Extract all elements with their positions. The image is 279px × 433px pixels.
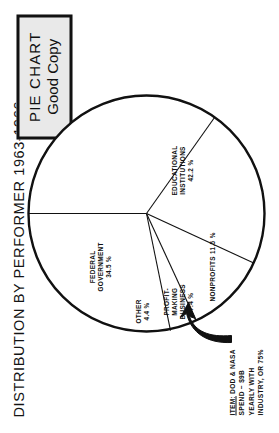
curved-arrow-path — [180, 302, 231, 342]
slice-label-line: MAKING — [170, 284, 178, 319]
item-note-label: ITEM: — [228, 396, 235, 415]
slice-label-other: OTHER 4.4 % — [134, 299, 150, 323]
slice-label-line: GOVERNMENT — [96, 242, 104, 291]
slice-label-line: EDUCATIONAL — [170, 145, 178, 195]
slice-label-line: PROFIT- — [162, 284, 170, 319]
slice-label-line: OTHER — [134, 299, 142, 323]
slice-label-line: INSTITUTIONS — [178, 145, 186, 195]
slice-label-nonprofits: NONPROFITS 11.5 % — [208, 232, 216, 301]
item-note-line-3: YEARLY WITH — [247, 367, 254, 415]
slice-label-line: NONPROFITS 11.5 % — [208, 232, 216, 301]
item-note-line-4: INDUSTRY, OR 75% — [256, 349, 263, 415]
slice-label-line: FEDERAL — [88, 242, 96, 291]
item-note-line-1: DOD & NASA — [228, 349, 235, 394]
curved-arrow-icon — [179, 301, 235, 347]
slide-canvas: DISTRIBUTION BY PERFORMER 1963-1966 PIE … — [0, 0, 279, 433]
slice-label-line: 4.4 % — [142, 299, 150, 323]
pie-chart: FEDERAL GOVERNMENT 34.5 % EDUCATIONAL IN… — [22, 89, 270, 337]
item-note-line-2: SPEND ~ $9B — [237, 369, 244, 415]
slice-label-line: 34.5 % — [104, 242, 112, 291]
item-note: ITEM: DOD & NASA SPEND ~ $9B YEARLY WITH… — [227, 349, 265, 415]
slice-label-line: 42.2 % — [186, 145, 194, 195]
slice-label-federal-government: FEDERAL GOVERNMENT 34.5 % — [88, 242, 113, 291]
slice-label-educational-institutions: EDUCATIONAL INSTITUTIONS 42.2 % — [170, 145, 195, 195]
